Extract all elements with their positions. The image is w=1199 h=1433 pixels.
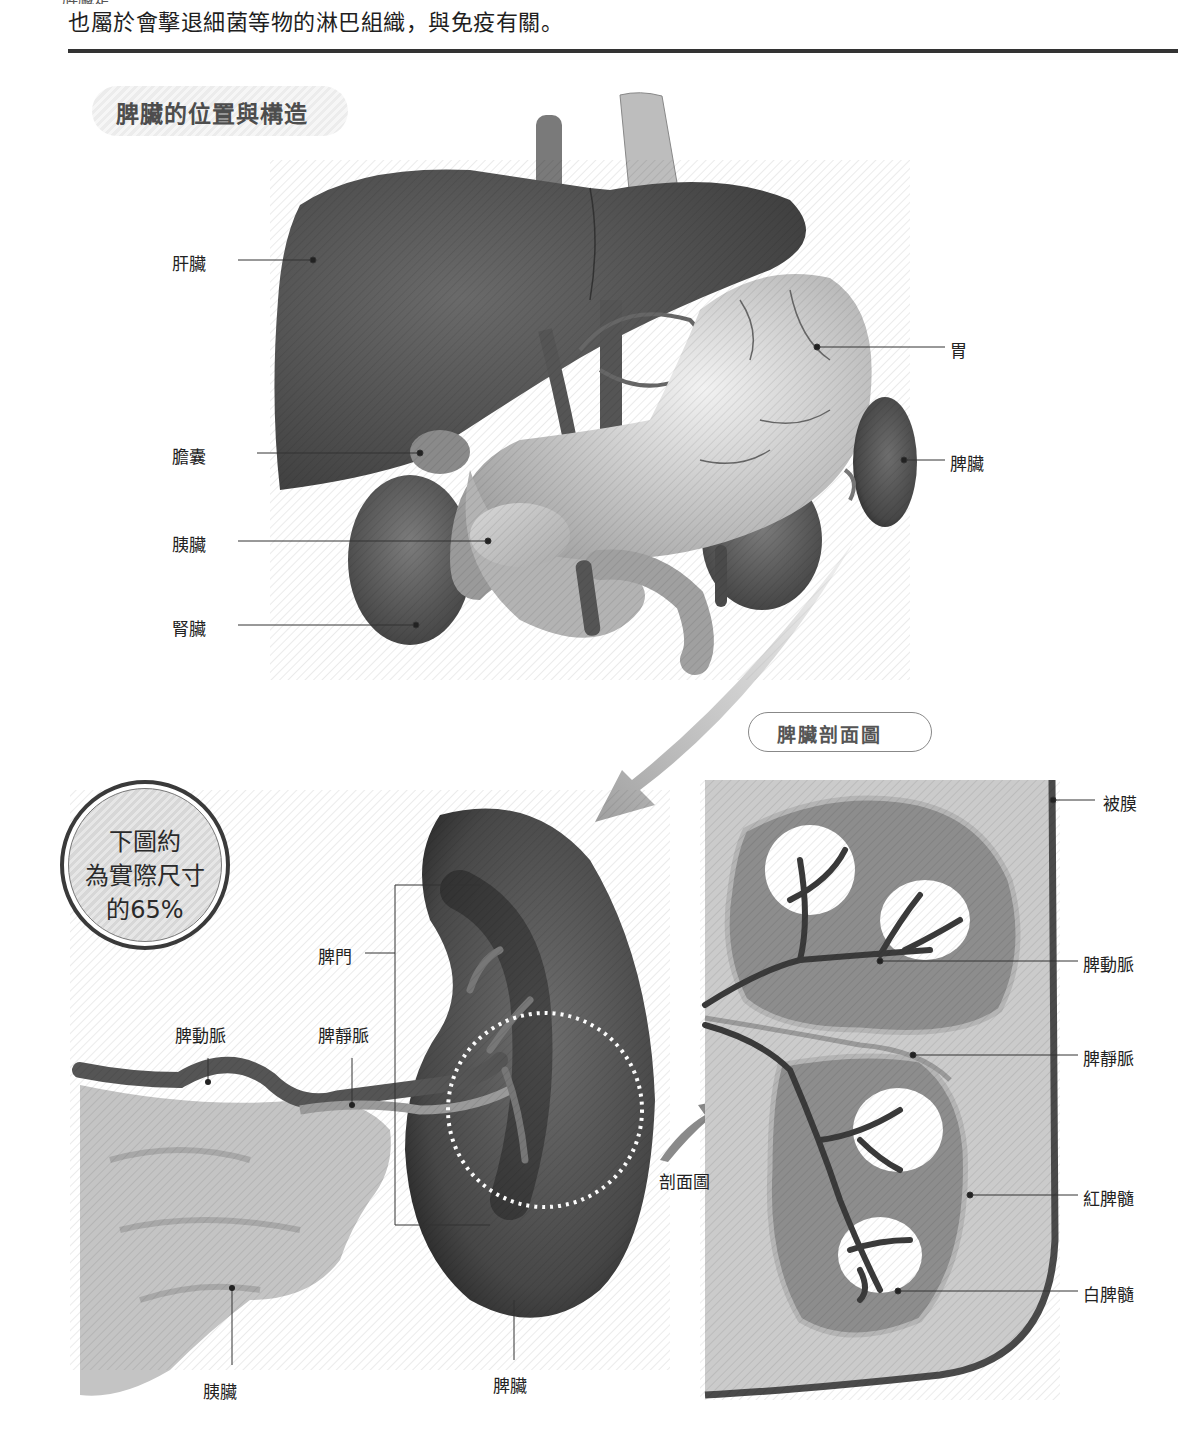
label-hilum: 脾門 xyxy=(318,943,352,968)
label-liver: 肝臟 xyxy=(172,250,206,275)
label-kidney: 腎臟 xyxy=(172,615,206,640)
label-cross-section-arrow: 剖面圖 xyxy=(659,1168,710,1193)
label-splenic-vein-lower: 脾靜脈 xyxy=(318,1022,369,1047)
cross-section-title: 脾臟剖面圖 xyxy=(777,720,882,747)
scale-badge-line1: 下圖約 xyxy=(64,822,226,857)
label-stomach: 胃 xyxy=(950,337,967,362)
anatomy-illustration xyxy=(0,0,1199,1433)
upper-organs-figure xyxy=(238,93,945,680)
label-gallbladder: 膽囊 xyxy=(172,443,206,468)
label-pancreas-upper: 胰臟 xyxy=(172,531,206,556)
label-pancreas-lower: 胰臟 xyxy=(203,1378,237,1403)
label-splenic-artery-lower: 脾動脈 xyxy=(175,1022,226,1047)
label-spleen-upper: 脾臟 xyxy=(950,450,984,475)
cross-section-title-pill: 脾臟剖面圖 xyxy=(748,712,932,752)
label-splenic-artery-section: 脾動脈 xyxy=(1083,951,1134,976)
scale-badge-line3: 的65% xyxy=(64,890,226,925)
label-red-pulp: 紅脾髓 xyxy=(1083,1185,1134,1210)
cross-section-figure xyxy=(700,780,1095,1400)
scale-badge-line2: 為實際尺寸 xyxy=(64,856,226,891)
label-capsule: 被膜 xyxy=(1103,790,1137,815)
label-white-pulp: 白脾髓 xyxy=(1083,1281,1134,1306)
scale-badge: 下圖約 為實際尺寸 的65% xyxy=(60,780,230,950)
label-spleen-lower: 脾臟 xyxy=(493,1372,527,1397)
label-splenic-vein-section: 脾靜脈 xyxy=(1083,1045,1134,1070)
